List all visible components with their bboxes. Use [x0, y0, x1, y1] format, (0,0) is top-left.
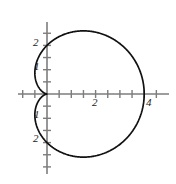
x-axis-label-4: 4 [146, 97, 152, 108]
y-axis-label-1: 1 [34, 61, 40, 72]
y-axis-label-neg-2: 2 [33, 133, 39, 144]
y-axis-label-neg-1: 1 [34, 109, 40, 120]
cardioid-plot-figure: 2 1 1 2 2 4 [0, 0, 176, 184]
x-axis-label-2: 2 [92, 97, 98, 108]
plot-canvas [0, 0, 176, 184]
y-axis-label-2: 2 [33, 37, 39, 48]
